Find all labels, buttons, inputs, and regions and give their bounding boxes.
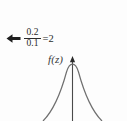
figure-canvas: 0.2 0.1 =2 f(z) <box>0 0 127 121</box>
plot-area <box>0 0 127 121</box>
vertical-axis <box>70 56 75 121</box>
